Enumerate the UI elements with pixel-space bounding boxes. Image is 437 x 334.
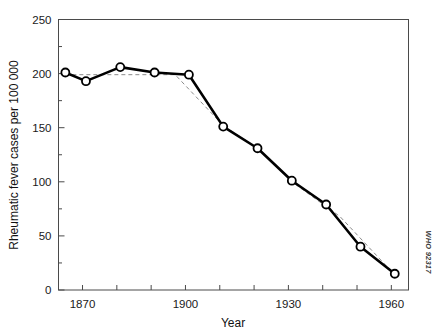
trend-line-dashed xyxy=(65,75,394,275)
y-tick-label: 100 xyxy=(32,176,51,188)
data-point-marker xyxy=(61,69,69,77)
x-axis-title: Year xyxy=(221,316,245,330)
x-axis-ticks xyxy=(83,285,392,290)
y-axis-tick-labels: 050100150200250 xyxy=(32,14,51,297)
data-point-marker xyxy=(82,77,90,85)
y-tick-label: 250 xyxy=(32,14,51,26)
y-tick-label: 50 xyxy=(39,230,52,242)
data-point-marker xyxy=(288,177,296,185)
data-point-markers xyxy=(61,63,398,278)
y-tick-label: 0 xyxy=(45,284,51,296)
x-tick-label: 1930 xyxy=(276,298,302,310)
y-tick-label: 200 xyxy=(32,68,51,80)
data-point-marker xyxy=(219,123,227,131)
y-axis-ticks xyxy=(59,20,65,291)
who-credit-label: WHO 92317 xyxy=(424,230,433,274)
x-tick-label: 1870 xyxy=(70,298,96,310)
y-axis-title: Rheumatic fever cases per 100 000 xyxy=(7,60,21,250)
data-point-marker xyxy=(356,243,364,251)
data-point-marker xyxy=(185,71,193,79)
data-point-marker xyxy=(391,270,399,278)
x-axis-tick-labels: 1870190019301960 xyxy=(70,298,404,310)
data-point-marker xyxy=(254,144,262,152)
data-point-marker xyxy=(322,201,330,209)
plot-frame xyxy=(59,20,409,291)
data-point-marker xyxy=(116,63,124,71)
x-tick-label: 1900 xyxy=(173,298,199,310)
figure-rheumatic-fever-trend: 050100150200250 1870190019301960 Year Rh… xyxy=(0,0,437,334)
data-point-marker xyxy=(151,69,159,77)
series-line-rheumatic-fever xyxy=(65,67,394,274)
chart-canvas: 050100150200250 1870190019301960 Year Rh… xyxy=(0,0,437,334)
y-tick-label: 150 xyxy=(32,122,51,134)
x-tick-label: 1960 xyxy=(379,298,405,310)
